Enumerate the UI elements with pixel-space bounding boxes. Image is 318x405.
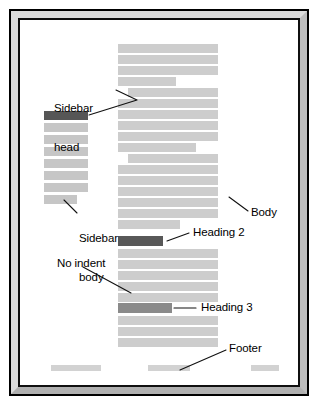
annotation-sidebar-head: Sidebar head — [54, 76, 93, 180]
body-line — [118, 66, 218, 75]
body-line — [118, 176, 218, 185]
body-line — [118, 316, 218, 325]
body-line — [118, 110, 218, 119]
body-line — [118, 165, 218, 174]
body-line — [118, 209, 218, 218]
footer-bar-center — [148, 365, 190, 371]
footer-bar-left — [51, 365, 101, 371]
leader-heading-2 — [167, 233, 189, 241]
heading-3-bar — [118, 303, 172, 313]
sidebar-body-bar — [44, 183, 88, 192]
annotation-sidebar-head-line1: Sidebar — [54, 102, 93, 115]
body-line-indented — [128, 88, 218, 97]
footer-bar-right — [251, 365, 279, 371]
sidebar-body-bar-last — [44, 195, 77, 204]
document-page: Sidebar head Sidebar body Body Heading 2… — [20, 20, 298, 385]
body-line — [118, 198, 218, 207]
body-line-paragraph-end — [118, 220, 180, 229]
annotation-sidebar-head-line2: head — [54, 141, 93, 154]
body-line — [118, 327, 218, 336]
annotation-heading-3: Heading 3 — [201, 301, 253, 314]
layout-diagram-figure: Sidebar head Sidebar body Body Heading 2… — [0, 0, 318, 405]
body-line — [118, 282, 218, 291]
annotation-body: Body — [251, 206, 277, 219]
body-line — [118, 99, 218, 108]
body-line — [118, 249, 218, 258]
leader-body — [229, 197, 248, 211]
body-line — [118, 44, 218, 53]
heading-2-bar — [118, 236, 163, 246]
annotation-sidebar-body-line2: body — [79, 271, 118, 284]
body-line-indented — [128, 154, 218, 163]
annotation-heading-2: Heading 2 — [193, 226, 245, 239]
body-line — [118, 132, 218, 141]
body-line-paragraph-end — [118, 143, 196, 152]
body-line — [118, 271, 218, 280]
body-line — [118, 338, 218, 347]
body-line — [118, 121, 218, 130]
annotation-sidebar-body-line1: Sidebar — [79, 232, 118, 245]
annotation-footer: Footer — [229, 342, 262, 355]
annotation-no-indent: No indent — [57, 257, 105, 270]
body-line — [118, 55, 218, 64]
body-line — [118, 260, 218, 269]
body-line-paragraph-end — [118, 77, 176, 86]
body-line — [118, 187, 218, 196]
